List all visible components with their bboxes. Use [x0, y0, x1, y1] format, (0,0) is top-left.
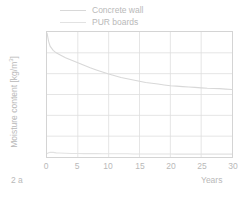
x-tick-10: 10	[98, 162, 118, 171]
y-axis-title: Moisture content [kg/m3]	[7, 42, 19, 162]
x-tick-25: 25	[192, 162, 212, 171]
y-axis-title-exponent: 3	[8, 58, 14, 61]
figure-chart: Concrete wall PUR boards	[0, 0, 243, 197]
x-tick-15: 15	[130, 162, 150, 171]
x-tick-5: 5	[67, 162, 87, 171]
x-tick-0: 0	[36, 162, 56, 171]
figure-caption: 2 a	[11, 176, 23, 185]
x-axis-title: Years	[201, 176, 222, 185]
y-axis-title-suffix: ]	[9, 56, 19, 58]
x-tick-20: 20	[161, 162, 181, 171]
x-tick-30: 30	[223, 162, 243, 171]
x-axis-tick-labels: 0 5 10 15 20 25 30	[0, 0, 243, 197]
y-axis-title-prefix: Moisture content [kg/m	[9, 62, 19, 148]
